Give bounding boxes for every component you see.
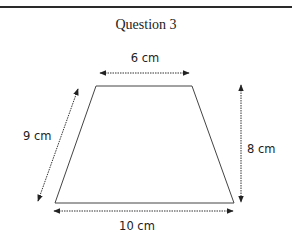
trapezium-shape — [55, 86, 234, 203]
height-label: 8 cm — [247, 142, 276, 156]
bottom-label: 10 cm — [119, 219, 155, 233]
slant-label: 9 cm — [23, 129, 52, 143]
top-label: 6 cm — [131, 51, 160, 65]
slant-dimension-arrow — [38, 89, 78, 201]
trapezium-diagram: 6 cm 9 cm 8 cm 10 cm — [0, 0, 292, 243]
